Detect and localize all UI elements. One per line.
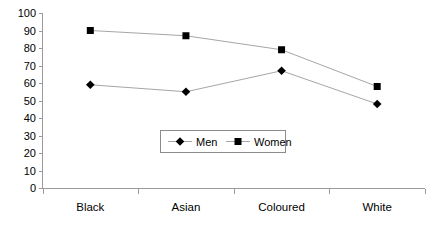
series-line-men bbox=[90, 71, 377, 104]
y-axis-tick-label: 70 bbox=[24, 60, 36, 72]
data-point-women-white bbox=[374, 83, 381, 90]
series-line-women bbox=[90, 31, 377, 87]
y-axis-tick-label: 60 bbox=[24, 77, 36, 89]
y-axis-tick-label: 50 bbox=[24, 95, 36, 107]
data-point-men-coloured bbox=[277, 66, 286, 75]
data-point-men-white bbox=[373, 100, 382, 109]
x-axis-tick-label: Coloured bbox=[258, 201, 305, 213]
legend-marker-women bbox=[235, 138, 242, 145]
x-axis-tick-marks bbox=[44, 189, 426, 195]
line-chart: 0102030405060708090100 BlackAsianColoure… bbox=[0, 0, 442, 232]
y-axis-tick-label: 20 bbox=[24, 147, 36, 159]
data-point-women-asian bbox=[182, 32, 189, 39]
y-axis-tick-marks bbox=[39, 14, 43, 189]
y-axis-tick-label: 10 bbox=[24, 165, 36, 177]
chart-legend: MenWomen bbox=[161, 131, 292, 153]
y-axis-tick-label: 80 bbox=[24, 42, 36, 54]
x-axis-tick-label: Asian bbox=[172, 201, 201, 213]
y-axis-tick-labels: 0102030405060708090100 bbox=[18, 7, 36, 194]
y-axis-tick-label: 90 bbox=[24, 25, 36, 37]
data-point-men-asian bbox=[182, 87, 191, 96]
x-axis-tick-label: White bbox=[362, 201, 391, 213]
y-axis-tick-label: 40 bbox=[24, 112, 36, 124]
x-axis-tick-label: Black bbox=[76, 201, 104, 213]
chart-canvas: 0102030405060708090100 BlackAsianColoure… bbox=[0, 0, 442, 232]
data-point-women-black bbox=[87, 27, 94, 34]
legend-label-men: Men bbox=[196, 136, 217, 148]
series-layer bbox=[86, 27, 381, 108]
legend-label-women: Women bbox=[254, 136, 292, 148]
y-axis-tick-label: 0 bbox=[30, 182, 36, 194]
x-axis-tick-labels: BlackAsianColouredWhite bbox=[76, 201, 392, 213]
y-axis-tick-label: 100 bbox=[18, 7, 36, 19]
data-point-women-coloured bbox=[278, 46, 285, 53]
y-axis-tick-label: 30 bbox=[24, 130, 36, 142]
data-point-men-black bbox=[86, 80, 95, 89]
